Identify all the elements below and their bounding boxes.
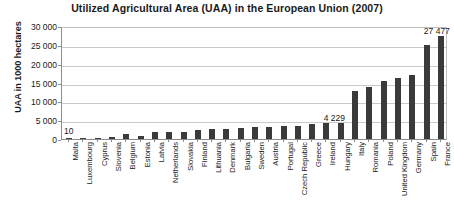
x-tick-mark <box>311 139 312 142</box>
bar <box>309 124 315 139</box>
x-tick-mark <box>168 139 169 142</box>
x-tick-mark <box>383 139 384 142</box>
x-tick-label: Poland <box>386 142 395 166</box>
x-tick-mark <box>125 139 126 142</box>
bar <box>424 45 430 139</box>
x-tick-label: Ireland <box>328 142 337 165</box>
x-tick-mark <box>197 139 198 142</box>
x-tick-label: Czech Republic <box>300 142 309 195</box>
y-tick-label: 25 000 <box>0 41 57 51</box>
x-tick-mark <box>68 139 69 142</box>
bar <box>281 126 287 139</box>
x-tick-label: Bulgaria <box>243 142 252 170</box>
x-tick-label: Malta <box>71 142 80 161</box>
x-tick-label: Slovakia <box>186 142 195 171</box>
x-tick-mark <box>254 139 255 142</box>
x-tick-mark <box>268 139 269 142</box>
x-tick-mark <box>426 139 427 142</box>
x-tick-mark <box>283 139 284 142</box>
x-tick-label: Luxembourg <box>85 142 94 184</box>
x-tick-label: Italy <box>357 142 366 156</box>
bar <box>123 134 129 139</box>
x-tick-label: Portugal <box>286 142 295 170</box>
y-tick-label: 10 000 <box>0 97 57 107</box>
x-tick-label: Netherlands <box>171 142 180 183</box>
chart-container: Utilized Agricultural Area (UAA) in the … <box>0 0 454 216</box>
x-tick-label: Hungary <box>343 142 352 171</box>
y-tick-label: 30 000 <box>0 22 57 32</box>
x-tick-mark <box>183 139 184 142</box>
bar <box>395 78 401 139</box>
bar <box>338 123 344 139</box>
y-axis-title: UAA in 1000 hectares <box>13 7 23 127</box>
bar <box>80 138 86 139</box>
plot-area <box>61 27 447 140</box>
bar <box>409 75 415 139</box>
x-tick-label: Latvia <box>157 142 166 162</box>
x-tick-label: France <box>443 142 452 166</box>
y-tick-label: 0 <box>0 135 57 145</box>
y-tick-label: 20 000 <box>0 60 57 70</box>
x-tick-mark <box>82 139 83 142</box>
x-tick-mark <box>211 139 212 142</box>
x-tick-mark <box>97 139 98 142</box>
chart-title: Utilized Agricultural Area (UAA) in the … <box>0 2 454 14</box>
bar <box>352 91 358 139</box>
data-label: 10 <box>64 126 73 136</box>
bar <box>366 87 372 139</box>
x-tick-mark <box>154 139 155 142</box>
bar <box>66 138 72 139</box>
bar <box>195 130 201 139</box>
x-tick-mark <box>225 139 226 142</box>
y-tick-mark <box>58 140 61 141</box>
x-tick-mark <box>240 139 241 142</box>
bar <box>323 123 329 139</box>
x-tick-mark <box>140 139 141 142</box>
x-tick-label: Romania <box>371 142 380 172</box>
x-tick-mark <box>411 139 412 142</box>
x-tick-mark <box>111 139 112 142</box>
bar <box>166 132 172 139</box>
x-tick-label: United Kingdom <box>400 142 409 196</box>
bar <box>252 127 258 139</box>
x-tick-label: Belgium <box>128 142 137 169</box>
bar <box>223 129 229 139</box>
x-tick-label: Lithuania <box>214 142 223 173</box>
x-tick-label: Denmark <box>228 142 237 173</box>
bar <box>109 137 115 139</box>
x-tick-mark <box>354 139 355 142</box>
data-label: 4 229 <box>324 113 345 123</box>
bar <box>95 138 101 139</box>
x-tick-label: Finland <box>200 142 209 167</box>
bar <box>238 128 244 139</box>
data-label: 27 477 <box>424 26 450 36</box>
x-tick-label: Slovenia <box>114 142 123 171</box>
x-tick-mark <box>368 139 369 142</box>
x-axis-labels: MaltaLuxembourgCyprusSloveniaBelgiumEsto… <box>61 142 447 216</box>
x-tick-label: Estonia <box>143 142 152 167</box>
x-tick-label: Germany <box>414 142 423 173</box>
x-tick-label: Spain <box>429 142 438 161</box>
bar <box>181 132 187 139</box>
bar <box>209 129 215 139</box>
x-tick-mark <box>440 139 441 142</box>
bar <box>152 132 158 139</box>
x-tick-mark <box>297 139 298 142</box>
x-tick-mark <box>340 139 341 142</box>
bar <box>138 136 144 139</box>
x-tick-label: Greece <box>314 142 323 167</box>
y-tick-label: 15 000 <box>0 79 57 89</box>
bar <box>266 127 272 139</box>
bar-series <box>62 28 446 139</box>
x-tick-label: Austria <box>271 142 280 166</box>
x-tick-label: Cyprus <box>100 142 109 166</box>
bar <box>438 36 444 139</box>
x-tick-mark <box>325 139 326 142</box>
y-tick-label: 5 000 <box>0 116 57 126</box>
bar <box>381 81 387 139</box>
x-tick-label: Sweden <box>257 142 266 169</box>
bar <box>295 126 301 139</box>
x-tick-mark <box>397 139 398 142</box>
